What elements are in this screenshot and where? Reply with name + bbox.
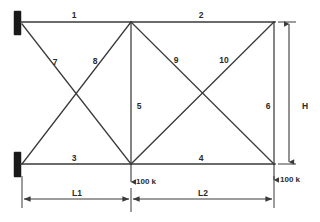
dimension-label-h: H xyxy=(302,101,308,111)
truss-svg: 1 2 3 4 5 6 7 8 9 10 L1 L2 H 100 k 100 k xyxy=(0,0,320,222)
support-top-left xyxy=(14,11,21,35)
member-label-6: 6 xyxy=(266,101,271,111)
member-label-8: 8 xyxy=(93,56,98,66)
member-label-2: 2 xyxy=(199,10,204,20)
load-label-right: 100 k xyxy=(280,175,301,184)
dimension-label-l1: L1 xyxy=(72,188,82,198)
member-label-7: 7 xyxy=(53,57,58,67)
member-label-5: 5 xyxy=(137,101,142,111)
member-label-10: 10 xyxy=(219,55,229,65)
member-label-9: 9 xyxy=(174,55,179,65)
dimension-h xyxy=(278,22,296,164)
truss-diagram: 1 2 3 4 5 6 7 8 9 10 L1 L2 H 100 k 100 k xyxy=(0,0,320,222)
member-label-3: 3 xyxy=(72,153,77,163)
support-bottom-left xyxy=(14,152,21,177)
member-label-4: 4 xyxy=(199,153,204,163)
dimension-label-l2: L2 xyxy=(198,188,208,198)
member-label-1: 1 xyxy=(72,10,77,20)
load-label-center: 100 k xyxy=(136,177,157,186)
